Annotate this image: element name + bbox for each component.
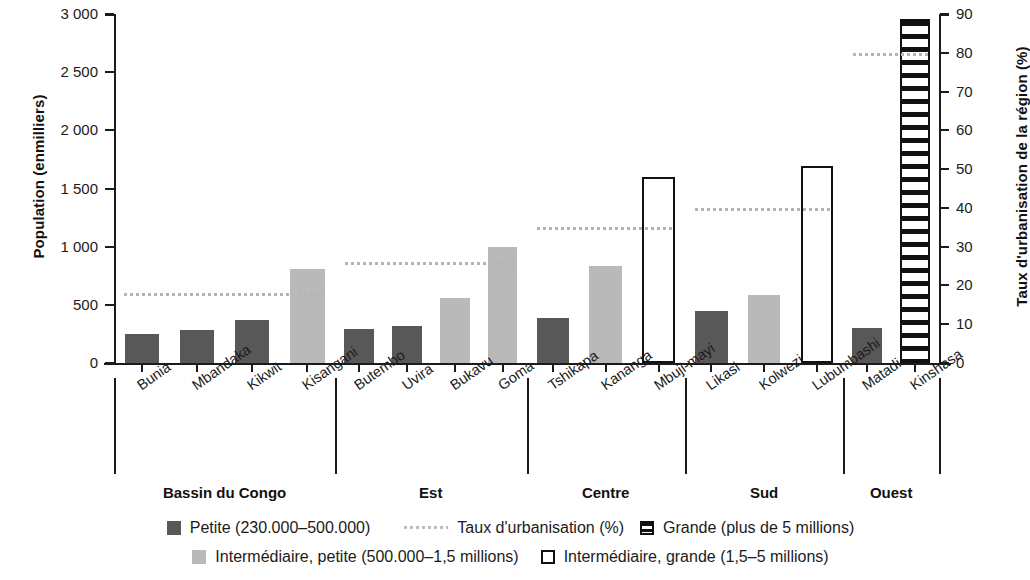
- y-tick-label-left: 0: [28, 355, 98, 370]
- x-tick: [605, 363, 607, 372]
- group-separator: [335, 378, 337, 474]
- y-tick-left: [105, 13, 114, 15]
- y-tick-label-right: 40: [956, 200, 1006, 215]
- y-tick-label-right: 60: [956, 122, 1006, 137]
- y-tick-right: [940, 207, 949, 209]
- x-tick: [358, 363, 360, 372]
- x-tick: [816, 363, 818, 372]
- legend-item-interm-diaire-petite-500-000-1-5-m: Intermédiaire, petite (500.000–1,5 milli…: [192, 548, 518, 566]
- y-tick-label-left: 500: [28, 297, 98, 312]
- x-tick: [710, 363, 712, 372]
- group-label-sud: Sud: [685, 484, 843, 501]
- y-tick-label-right: 10: [956, 316, 1006, 331]
- y-tick-label-right: 70: [956, 84, 1006, 99]
- x-tick: [552, 363, 554, 372]
- bar-mbuji-mayi: [642, 177, 675, 363]
- group-label-bassin-du-congo: Bassin du Congo: [114, 484, 335, 501]
- bar-kananga: [589, 266, 622, 363]
- y-tick-left: [105, 246, 114, 248]
- urbanisation-segment-ouest: [853, 53, 929, 56]
- x-tick: [196, 363, 198, 372]
- y-tick-right: [940, 13, 949, 15]
- legend-swatch-icon: [167, 521, 181, 535]
- x-tick: [454, 363, 456, 372]
- group-separator: [527, 378, 529, 474]
- y-tick-right: [940, 129, 949, 131]
- group-separator: [843, 378, 845, 474]
- y-tick-left: [105, 362, 114, 364]
- bar-lubumbashi: [801, 166, 834, 363]
- y-tick-left: [105, 129, 114, 131]
- legend-label: Intermédiaire, grande (1,5–5 millions): [564, 548, 829, 566]
- legend-swatch-icon: [640, 521, 654, 535]
- y-tick-right: [940, 52, 949, 54]
- bar-kolwezi: [748, 295, 781, 363]
- y-tick-right: [940, 246, 949, 248]
- x-tick: [866, 363, 868, 372]
- y-tick-label-right: 80: [956, 45, 1006, 60]
- x-tick: [141, 363, 143, 372]
- group-separator: [685, 378, 687, 474]
- group-label-est: Est: [335, 484, 526, 501]
- x-tick: [763, 363, 765, 372]
- bar-kisangani: [290, 269, 324, 363]
- chart-legend: Petite (230.000–500.000)Taux d'urbanisat…: [0, 513, 1021, 571]
- y-axis-title-left: Population (enmilliers): [30, 47, 47, 307]
- bar-mbandaka: [180, 330, 214, 363]
- urbanisation-segment-sud: [695, 208, 833, 211]
- urbanisation-line-swatch-icon: [404, 526, 448, 529]
- y-tick-label-left: 2 500: [28, 64, 98, 79]
- y-tick-right: [940, 323, 949, 325]
- x-tick: [406, 363, 408, 372]
- x-tick: [914, 363, 916, 372]
- urbanisation-segment-est: [345, 262, 516, 265]
- y-tick-right: [940, 284, 949, 286]
- x-tick: [658, 363, 660, 372]
- group-separator: [114, 378, 116, 474]
- legend-item-petite-230-000-500-000-: Petite (230.000–500.000): [167, 519, 371, 537]
- urbanisation-segment-centre: [537, 227, 675, 230]
- legend-item-grande-plus-de-5-millions-: Grande (plus de 5 millions): [640, 519, 854, 537]
- y-tick-label-left: 2 000: [28, 122, 98, 137]
- y-axis-left: [114, 14, 116, 363]
- group-label-centre: Centre: [527, 484, 685, 501]
- x-tick: [502, 363, 504, 372]
- y-tick-label-right: 90: [956, 6, 1006, 21]
- group-label-ouest: Ouest: [843, 484, 939, 501]
- y-tick-label-right: 20: [956, 277, 1006, 292]
- legend-swatch-icon: [541, 550, 555, 564]
- legend-row-2: Intermédiaire, petite (500.000–1,5 milli…: [0, 542, 1021, 571]
- y-tick-label-right: 50: [956, 161, 1006, 176]
- y-tick-left: [105, 304, 114, 306]
- y-tick-label-left: 1 500: [28, 181, 98, 196]
- y-tick-right: [940, 91, 949, 93]
- legend-label: Grande (plus de 5 millions): [663, 519, 854, 537]
- y-tick-left: [105, 71, 114, 73]
- urbanisation-segment-bassin-du-congo: [124, 293, 325, 296]
- y-tick-left: [105, 188, 114, 190]
- group-separator: [939, 378, 941, 474]
- bar-kinshasa: [900, 19, 930, 363]
- legend-item-interm-diaire-grande-1-5-5-million: Intermédiaire, grande (1,5–5 millions): [541, 548, 829, 566]
- y-tick-right: [940, 168, 949, 170]
- y-tick-label-right: 30: [956, 239, 1006, 254]
- x-axis-label-uvira: Uvira: [399, 361, 436, 394]
- x-tick: [306, 363, 308, 372]
- bar-tshikapa: [537, 318, 570, 363]
- bar-bukavu: [440, 298, 470, 363]
- legend-label: Intermédiaire, petite (500.000–1,5 milli…: [215, 548, 518, 566]
- bar-bunia: [125, 334, 159, 363]
- y-axis-right: [939, 14, 941, 363]
- y-axis-title-right: Taux d'urbanisation de la région (%): [1013, 2, 1030, 352]
- legend-label: Petite (230.000–500.000): [190, 519, 371, 537]
- legend-swatch-icon: [192, 550, 206, 564]
- legend-label: Taux d'urbanisation (%): [457, 519, 624, 537]
- legend-row-1: Petite (230.000–500.000)Taux d'urbanisat…: [0, 513, 1021, 542]
- y-tick-label-left: 1 000: [28, 239, 98, 254]
- y-tick-label-left: 3 000: [28, 6, 98, 21]
- plot-area: 05001 0001 5002 0002 5003 000 0102030405…: [114, 14, 941, 363]
- legend-item-taux-d-urbanisation-: Taux d'urbanisation (%): [404, 519, 624, 537]
- x-tick: [251, 363, 253, 372]
